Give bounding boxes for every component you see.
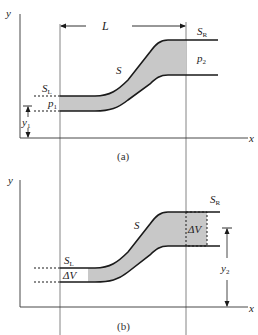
y1-label: y1 (21, 116, 31, 130)
side-surface-label-a: S (116, 64, 122, 76)
right-volume-label: ΔV (187, 223, 202, 235)
right-surface-label-b: SR (210, 193, 221, 207)
caption-a: (a) (117, 150, 130, 163)
panel-b: y x SL SR S ΔV ΔV y2 (b) (7, 174, 254, 333)
y2-label: y2 (220, 262, 230, 276)
right-surface-label-a: SR (197, 25, 208, 39)
y-axis-label-b: y (7, 174, 13, 186)
fluid-tube-diagram: y x L SL SR S p1 p2 y1 (a) y x SL SR (0, 0, 258, 335)
left-volume-label: ΔV (62, 269, 77, 281)
left-pressure-label: p1 (47, 97, 58, 111)
y-axis-label-a: y (5, 7, 11, 19)
x-axis-label-a: x (248, 132, 254, 144)
x-axis-label-b: x (248, 302, 254, 314)
panel-a: y x L SL SR S p1 p2 y1 (a) (5, 7, 254, 163)
left-surface-label-a: SL (42, 82, 52, 96)
caption-b: (b) (117, 320, 130, 333)
length-label: L (101, 19, 109, 33)
left-surface-label-b: SL (64, 254, 74, 268)
side-surface-label-b: S (134, 219, 140, 231)
right-pressure-label: p2 (196, 52, 207, 66)
